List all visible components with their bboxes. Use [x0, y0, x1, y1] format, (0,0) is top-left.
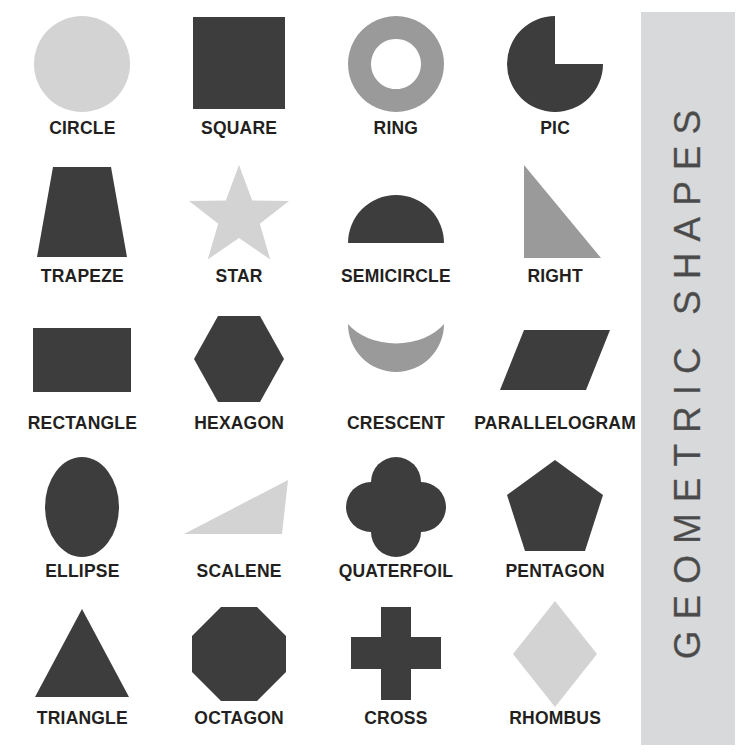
shape-label-rectangle: RECTANGLE	[28, 415, 137, 433]
shape-cell-ellipse[interactable]: ELLIPSE	[4, 453, 161, 601]
shape-label-ellipse: ELLIPSE	[45, 563, 119, 581]
shape-art-ring	[337, 10, 455, 118]
shape-label-quaterfoil: QUATERFOIL	[339, 563, 453, 581]
shape-art-rhombus	[496, 600, 614, 708]
shape-art-cross	[337, 600, 455, 708]
shape-art-circle	[23, 10, 141, 118]
shape-cell-pentagon[interactable]: PENTAGON	[474, 453, 636, 601]
scalene-triangle-shape	[180, 456, 298, 558]
shape-label-triangle: TRIANGLE	[37, 710, 128, 728]
shape-cell-hexagon[interactable]: HEXAGON	[161, 305, 318, 453]
circle-shape	[31, 13, 133, 115]
shape-label-trapeze: TRAPEZE	[41, 268, 124, 286]
rhombus-shape	[504, 599, 606, 709]
shape-label-star: STAR	[216, 268, 263, 286]
shape-label-pic: PIC	[540, 120, 570, 138]
shape-cell-semicircle[interactable]: SEMICIRCLE	[318, 158, 475, 306]
shape-cell-parallelogram[interactable]: PARALLELOGRAM	[474, 305, 636, 453]
crescent-shape	[340, 308, 452, 410]
rectangle-shape	[26, 308, 138, 410]
shape-label-circle: CIRCLE	[49, 120, 115, 138]
ring-shape	[345, 13, 447, 115]
shape-cell-scalene[interactable]: SCALENE	[161, 453, 318, 601]
shape-cell-circle[interactable]: CIRCLE	[4, 10, 161, 158]
shape-cell-crescent[interactable]: CRESCENT	[318, 305, 475, 453]
shape-art-octagon	[180, 600, 298, 708]
shape-art-quaterfoil	[337, 453, 455, 561]
shape-art-crescent	[337, 305, 455, 413]
shape-label-parallelogram: PARALLELOGRAM	[474, 415, 636, 433]
shape-label-semicircle: SEMICIRCLE	[341, 268, 451, 286]
cross-shape	[345, 603, 447, 705]
right-triangle-shape	[504, 161, 606, 263]
shape-cell-rectangle[interactable]: RECTANGLE	[4, 305, 161, 453]
shape-label-crescent: CRESCENT	[347, 415, 445, 433]
shape-art-rectangle	[23, 305, 141, 413]
shape-art-pentagon	[496, 453, 614, 561]
triangle-shape	[31, 603, 133, 705]
shape-art-hexagon	[180, 305, 298, 413]
pie-shape	[504, 13, 606, 115]
shape-cell-quaterfoil[interactable]: QUATERFOIL	[318, 453, 475, 601]
shape-art-parallelogram	[496, 305, 614, 413]
shape-cell-square[interactable]: SQUARE	[161, 10, 318, 158]
shape-art-ellipse	[23, 453, 141, 561]
shape-art-semicircle	[337, 158, 455, 266]
shape-label-pentagon: PENTAGON	[505, 563, 604, 581]
semicircle-shape	[340, 161, 452, 263]
shape-label-scalene: SCALENE	[197, 563, 282, 581]
shape-cell-pic[interactable]: PIC	[474, 10, 636, 158]
shape-label-ring: RING	[374, 120, 419, 138]
shape-label-rhombus: RHOMBUS	[509, 710, 601, 728]
parallelogram-shape	[496, 308, 614, 410]
square-shape	[188, 13, 290, 115]
shape-art-scalene	[180, 453, 298, 561]
shape-label-hexagon: HEXAGON	[194, 415, 284, 433]
star-shape	[188, 161, 290, 263]
shape-art-square	[180, 10, 298, 118]
shapes-grid: CIRCLE SQUARE RING	[0, 0, 640, 754]
shape-cell-trapeze[interactable]: TRAPEZE	[4, 158, 161, 306]
shape-cell-cross[interactable]: CROSS	[318, 600, 475, 748]
quaterfoil-shape	[345, 456, 447, 558]
ellipse-shape	[31, 454, 133, 560]
shape-art-triangle	[23, 600, 141, 708]
trapezoid-shape	[31, 161, 133, 263]
side-banner-title: GEOMETRIC SHAPES	[667, 98, 709, 658]
hexagon-shape	[188, 308, 290, 410]
shape-cell-octagon[interactable]: OCTAGON	[161, 600, 318, 748]
shape-label-cross: CROSS	[364, 710, 427, 728]
side-banner: GEOMETRIC SHAPES	[641, 12, 735, 745]
geometric-shapes-poster: CIRCLE SQUARE RING	[0, 0, 753, 754]
octagon-shape	[188, 603, 290, 705]
shape-cell-star[interactable]: STAR	[161, 158, 318, 306]
shape-art-right	[496, 158, 614, 266]
shape-cell-rhombus[interactable]: RHOMBUS	[474, 600, 636, 748]
shape-cell-ring[interactable]: RING	[318, 10, 475, 158]
shape-label-right: RIGHT	[527, 268, 582, 286]
shape-label-square: SQUARE	[201, 120, 277, 138]
shape-art-star	[180, 158, 298, 266]
shape-art-pic	[496, 10, 614, 118]
pentagon-shape	[504, 456, 606, 558]
shape-cell-triangle[interactable]: TRIANGLE	[4, 600, 161, 748]
shape-label-octagon: OCTAGON	[194, 710, 284, 728]
shape-cell-right[interactable]: RIGHT	[474, 158, 636, 306]
shape-art-trapeze	[23, 158, 141, 266]
